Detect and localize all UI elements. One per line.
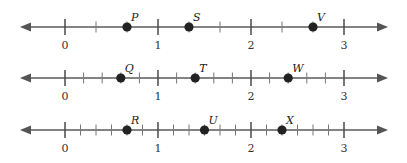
point-label: Q — [125, 62, 134, 75]
point-label: R — [130, 114, 139, 127]
left-arrow-icon — [20, 74, 31, 83]
number-line-2: 0123QTW — [20, 62, 388, 103]
number-line-3: 0123RUX — [20, 114, 388, 155]
point-label: W — [292, 62, 305, 75]
tick-label: 1 — [155, 90, 162, 103]
point-label: T — [199, 62, 208, 75]
tick-label: 2 — [248, 39, 255, 52]
tick-label: 1 — [155, 142, 162, 155]
number-lines-figure: 0123PSV0123QTW0123RUX — [0, 0, 407, 163]
point-label: X — [285, 114, 295, 127]
tick-label: 0 — [62, 90, 69, 103]
right-arrow-icon — [377, 74, 388, 83]
tick-label: 2 — [248, 90, 255, 103]
right-arrow-icon — [377, 23, 388, 32]
tick-label: 0 — [62, 39, 69, 52]
tick-label: 3 — [341, 142, 348, 155]
number-line-1: 0123PSV — [20, 11, 388, 52]
left-arrow-icon — [20, 23, 31, 32]
point-label: P — [130, 11, 139, 24]
right-arrow-icon — [377, 126, 388, 135]
tick-label: 1 — [155, 39, 162, 52]
left-arrow-icon — [20, 126, 31, 135]
tick-label: 0 — [62, 142, 69, 155]
point-label: V — [317, 11, 326, 24]
point-label: S — [193, 11, 201, 24]
tick-label: 3 — [341, 90, 348, 103]
point-label: U — [209, 114, 219, 127]
tick-label: 2 — [248, 142, 255, 155]
tick-label: 3 — [341, 39, 348, 52]
